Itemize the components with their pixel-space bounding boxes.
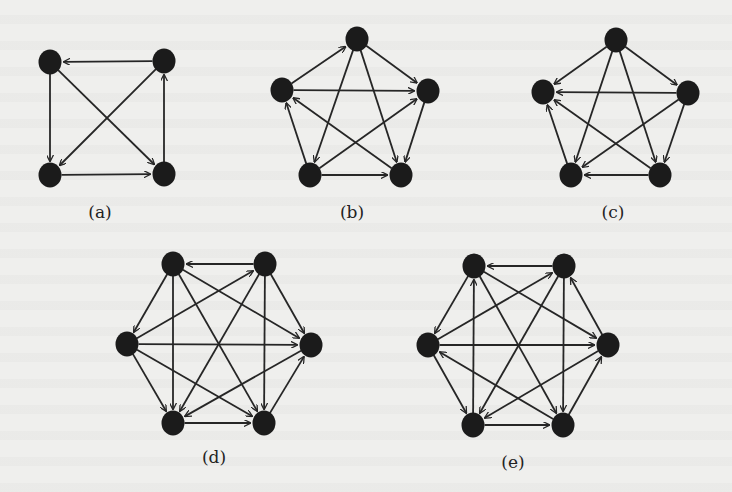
edge-d-TR-to-BR (264, 276, 265, 410)
edge-e-L-to-BL (434, 355, 467, 413)
edge-c-R-to-BL (582, 100, 679, 168)
edge-b-L-to-T (292, 47, 346, 84)
caption-c: (c) (602, 202, 625, 222)
edge-c-T-to-R (625, 47, 677, 85)
tournament-graphs-figure (0, 0, 732, 492)
graph-c-edges (547, 47, 684, 175)
edge-a-BL-to-BR (62, 174, 151, 175)
caption-d: (d) (202, 447, 226, 467)
node-b-BL (299, 163, 322, 188)
edge-e-TL-to-R (484, 272, 597, 338)
edge-b-L-to-R (294, 90, 415, 91)
graph-c-nodes (532, 28, 700, 188)
caption-a: (a) (88, 202, 111, 222)
caption-b: (b) (340, 202, 364, 222)
graph-e-edges (434, 266, 603, 425)
edge-e-BR-to-L (440, 352, 553, 419)
edge-d-L-to-BL (133, 354, 166, 411)
node-e-R (597, 333, 620, 358)
node-e-BR (552, 413, 575, 438)
node-d-TL (162, 252, 185, 277)
edge-c-BR-to-L (554, 100, 651, 169)
node-d-BL (162, 411, 185, 436)
node-d-TR (254, 252, 277, 277)
edge-c-R-to-BR (664, 104, 684, 162)
edge-c-R-to-L (557, 92, 677, 93)
node-d-R (300, 333, 323, 358)
edges-layer (50, 46, 684, 425)
node-a-BR (153, 162, 176, 187)
edge-a-TR-to-TL (64, 61, 153, 62)
edge-e-L-to-TR (438, 273, 552, 339)
node-e-TL (463, 254, 486, 279)
edge-d-L-to-BR (137, 350, 252, 417)
edge-b-BR-to-L (293, 98, 392, 169)
edge-d-TL-to-BR (179, 274, 258, 411)
edge-d-TR-to-BL (180, 274, 259, 411)
node-d-BR (253, 411, 276, 436)
node-d-L (116, 332, 139, 357)
node-b-R (417, 79, 440, 104)
node-c-T (605, 28, 628, 53)
node-b-BR (390, 163, 413, 188)
node-c-BL (560, 163, 583, 188)
node-a-TL (39, 50, 62, 75)
edge-b-BL-to-L (286, 103, 306, 164)
node-b-T (346, 27, 369, 52)
graph-a-edges (50, 61, 164, 175)
node-c-BR (649, 163, 672, 188)
node-e-TR (553, 254, 576, 279)
node-c-L (532, 80, 555, 105)
edge-e-BL-to-TL (473, 280, 474, 414)
caption-e: (e) (501, 452, 524, 472)
edge-b-T-to-BR (361, 50, 397, 162)
edge-b-BL-to-R (319, 99, 417, 169)
edge-d-R-to-BL (185, 351, 301, 417)
edge-b-T-to-R (366, 46, 417, 83)
node-a-BL (39, 163, 62, 188)
edge-e-R-to-BL (485, 351, 598, 418)
node-e-BL (462, 413, 485, 438)
edge-c-T-to-L (554, 47, 607, 84)
edge-b-T-to-BL (314, 50, 353, 162)
node-b-L (271, 78, 294, 103)
node-c-R (677, 81, 700, 106)
edge-c-T-to-BL (575, 51, 612, 162)
node-e-L (417, 333, 440, 358)
edge-e-TR-to-BR (563, 278, 564, 412)
edge-c-BL-to-L (547, 105, 567, 164)
graph-b-edges (286, 46, 424, 175)
edge-c-T-to-BR (620, 51, 656, 162)
graph-b-nodes (271, 27, 440, 188)
node-a-TR (153, 49, 176, 74)
graph-d-edges (133, 264, 304, 423)
edge-b-R-to-BR (405, 102, 424, 162)
edge-d-L-to-TR (137, 271, 253, 338)
